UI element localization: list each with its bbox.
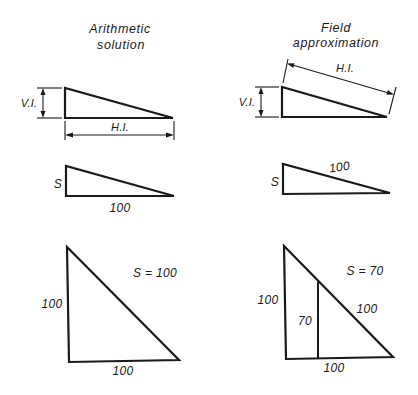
right-title-line1: Field (321, 21, 352, 35)
row1-right-triangle (282, 87, 387, 117)
row1-right-vi-label: V.I. (239, 96, 256, 108)
right-column-title: Field approximation (293, 21, 379, 50)
row1-left-vi-label: V.I. (21, 97, 38, 109)
row2-right-slope-label: 100 (328, 159, 351, 176)
row1-right-triangle-group: V.I. H.I. (239, 59, 396, 117)
row1-left-triangle-group: V.I. H.I. (21, 88, 174, 140)
arrow-up-icon (41, 88, 46, 95)
row3-right-equation: S = 70 (347, 264, 384, 278)
row3-left-triangle-group: S = 100 100 100 (42, 247, 179, 378)
row2-left-triangle-group: S 100 (54, 166, 174, 215)
row2-right-s-label: S (271, 175, 279, 189)
row3-left-triangle (67, 247, 179, 362)
row3-right-inner-label: 70 (298, 314, 312, 328)
row2-left-run-label: 100 (110, 201, 131, 215)
row1-left-hi-label: H.I. (111, 121, 129, 133)
row1-right-hi-label: H.I. (336, 62, 354, 74)
arrow-left-icon (65, 133, 73, 138)
row1-left-triangle (65, 88, 173, 118)
arrow-up-icon (259, 87, 264, 94)
row2-left-triangle (66, 166, 174, 196)
left-column-title: Arithmetic solution (88, 22, 151, 52)
right-title-line2: approximation (293, 36, 379, 50)
diagram-canvas: Arithmetic solution Field approximation … (0, 0, 418, 395)
row3-left-vertical-label: 100 (42, 297, 63, 311)
row3-left-equation: S = 100 (133, 266, 177, 280)
arrow-down-icon (259, 110, 264, 117)
row3-right-triangle-group: S = 70 100 70 100 100 (258, 246, 393, 375)
row3-right-vertical-label: 100 (258, 293, 279, 307)
arrow-down-icon (41, 111, 46, 118)
row3-right-base-label: 100 (324, 361, 345, 375)
row2-right-triangle-group: S 100 (271, 159, 390, 194)
left-title-line2: solution (97, 38, 145, 52)
left-title-line1: Arithmetic (88, 22, 151, 36)
arrow-right-icon (166, 133, 174, 138)
arrow-right-icon (386, 90, 394, 95)
slope-extension-right (389, 87, 396, 114)
row3-right-hypotenuse-label: 100 (357, 302, 378, 316)
arrow-left-icon (287, 63, 295, 68)
row2-left-s-label: S (54, 177, 62, 191)
slope-diagram: Arithmetic solution Field approximation … (0, 0, 418, 395)
slope-extension-left (283, 59, 288, 83)
row3-left-base-label: 100 (113, 364, 134, 378)
